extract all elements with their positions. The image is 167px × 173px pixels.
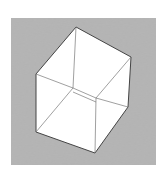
cube-illustration	[0, 0, 167, 173]
